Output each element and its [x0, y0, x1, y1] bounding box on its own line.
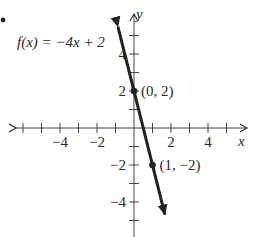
x-axis-label: x: [237, 133, 245, 149]
x-tick-label: −4: [52, 134, 68, 150]
x-tick-labels: −4−224: [52, 134, 212, 150]
function-line: [118, 27, 165, 215]
y-tick-label: −4: [110, 194, 126, 210]
function-label: f(x) = −4x + 2: [17, 34, 105, 51]
point-marker: [149, 162, 156, 169]
x-tick-label: 4: [204, 134, 212, 150]
point-marker: [131, 88, 138, 95]
coordinate-plane: x y −4−224 42−2−4 (0, 2)(1, −2) f(x) = −…: [0, 0, 253, 237]
x-tick-label: −2: [89, 134, 105, 150]
x-tick-label: 2: [167, 134, 175, 150]
y-tick-label: −2: [110, 157, 126, 173]
point-label: (1, −2): [160, 157, 201, 174]
point-label: (0, 2): [141, 83, 174, 100]
y-axis: [129, 14, 139, 237]
list-bullet: [1, 18, 6, 23]
x-axis: [16, 123, 247, 133]
y-axis-label: y: [134, 6, 143, 22]
y-tick-label: 2: [119, 83, 127, 99]
